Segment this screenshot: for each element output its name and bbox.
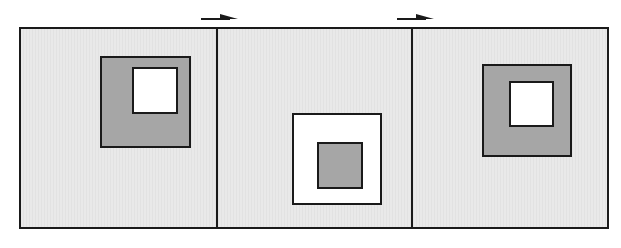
- panel-divider-2: [411, 27, 413, 229]
- panel-divider-1: [216, 27, 218, 229]
- arrow-right-icon: [200, 10, 240, 24]
- panel-2-inner-square: [317, 142, 363, 189]
- panel-1-inner-square: [132, 67, 178, 114]
- panel-3-inner-square: [509, 81, 554, 127]
- arrow-right-icon: [396, 10, 436, 24]
